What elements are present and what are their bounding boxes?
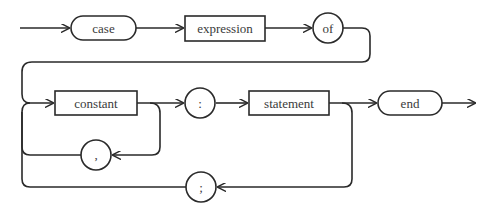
constant-label: constant: [74, 96, 118, 111]
of-label: of: [323, 21, 335, 36]
statement-label: statement: [264, 96, 314, 111]
loop-line-semicolon-to-bus: [22, 112, 186, 187]
semicolon-label: ;: [199, 180, 203, 195]
case-statement-syntax-diagram: case expression of constant : statement …: [0, 0, 493, 209]
case-label: case: [92, 21, 115, 36]
end-label: end: [401, 96, 420, 111]
colon-label: :: [198, 96, 202, 111]
expression-label: expression: [197, 21, 253, 36]
loop-line-comma-to-bus: [22, 103, 81, 155]
comma-label: ,: [94, 147, 97, 162]
